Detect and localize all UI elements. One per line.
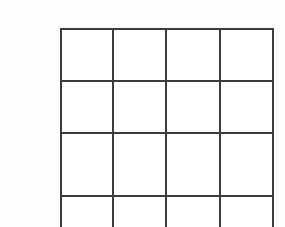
- grid-cell[interactable]: [114, 134, 165, 195]
- grid-cell[interactable]: [221, 197, 272, 227]
- grid-cell[interactable]: [114, 82, 165, 132]
- grid-line-vertical-3: [219, 28, 221, 227]
- grid-line-horizontal-3: [60, 195, 274, 197]
- grid-cell[interactable]: [221, 134, 272, 195]
- grid-cell[interactable]: [62, 134, 112, 195]
- grid-cell[interactable]: [62, 197, 112, 227]
- grid-cell[interactable]: [62, 82, 112, 132]
- grid-line-vertical-0: [60, 28, 62, 227]
- page-root: [0, 0, 285, 227]
- grid-cell[interactable]: [221, 30, 272, 80]
- grid-line-horizontal-2: [60, 132, 274, 134]
- grid-line-vertical-2: [165, 28, 167, 227]
- grid-line-vertical-4: [272, 28, 274, 227]
- grid-viewport: [0, 0, 285, 227]
- grid-cell[interactable]: [167, 82, 219, 132]
- grid-cell[interactable]: [221, 82, 272, 132]
- grid-cell[interactable]: [167, 134, 219, 195]
- grid-line-vertical-1: [112, 28, 114, 227]
- grid-cell[interactable]: [167, 30, 219, 80]
- grid-line-horizontal-1: [60, 80, 274, 82]
- grid-cell[interactable]: [62, 30, 112, 80]
- grid-cell[interactable]: [114, 30, 165, 80]
- grid-cell[interactable]: [167, 197, 219, 227]
- grid-cell[interactable]: [114, 197, 165, 227]
- grid-line-horizontal-0: [60, 28, 274, 30]
